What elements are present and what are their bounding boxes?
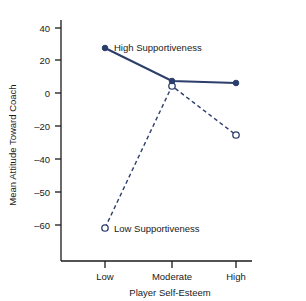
y-tick-label-neg60: –60 [34,220,50,231]
y-tick-label-0: 0 [45,88,50,99]
chart-figure: 40 20 0 –20 –40 –50 –60 Low Moderate Hig… [0,0,306,301]
x-tick-label-low: Low [96,271,114,282]
line-chart-svg: 40 20 0 –20 –40 –50 –60 Low Moderate Hig… [0,0,306,301]
y-tick-label-20: 20 [39,55,50,66]
series-marker-high-supportiveness-high [233,80,239,86]
x-tick-label-high: High [226,271,246,282]
series-marker-low-supportiveness-low [102,225,108,231]
y-tick-label-neg50: –50 [34,187,50,198]
y-tick-label-neg20: –20 [34,121,50,132]
series-label-low-supportiveness: Low Supportiveness [114,223,200,234]
x-axis-title: Player Self-Esteem [129,287,210,298]
series-label-high-supportiveness: High Supportiveness [114,42,202,53]
x-tick-label-moderate: Moderate [152,271,192,282]
y-tick-label-neg40: –40 [34,154,50,165]
series-marker-high-supportiveness-moderate [169,78,175,84]
series-marker-high-supportiveness-low [102,45,108,51]
y-tick-label-40: 40 [39,23,50,34]
y-axis-title: Mean Attitude Toward Coach [7,84,18,205]
series-marker-low-supportiveness-high [233,132,239,138]
